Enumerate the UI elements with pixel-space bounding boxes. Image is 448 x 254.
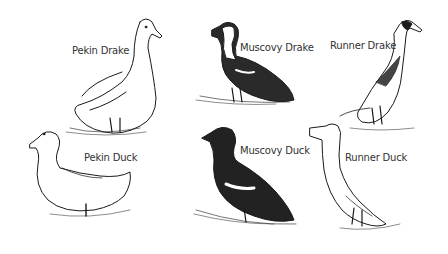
pekin-duck-drawing bbox=[30, 132, 130, 217]
runner-duck-drawing bbox=[310, 124, 400, 229]
label-runner-drake: Runner Drake bbox=[330, 40, 396, 51]
label-muscovy-duck: Muscovy Duck bbox=[240, 145, 310, 156]
duck-breeds-illustration: Pekin Drake Muscovy Drake Runner Drake P… bbox=[0, 0, 448, 254]
pekin-drake-drawing bbox=[66, 19, 162, 135]
duck-drawings bbox=[0, 0, 448, 254]
label-pekin-drake: Pekin Drake bbox=[72, 45, 129, 56]
label-pekin-duck: Pekin Duck bbox=[84, 152, 137, 163]
label-muscovy-drake: Muscovy Drake bbox=[240, 42, 314, 53]
runner-drake-drawing bbox=[340, 20, 422, 130]
muscovy-drake-drawing bbox=[196, 22, 294, 104]
muscovy-duck-drawing bbox=[194, 127, 296, 224]
label-runner-duck: Runner Duck bbox=[345, 152, 407, 163]
